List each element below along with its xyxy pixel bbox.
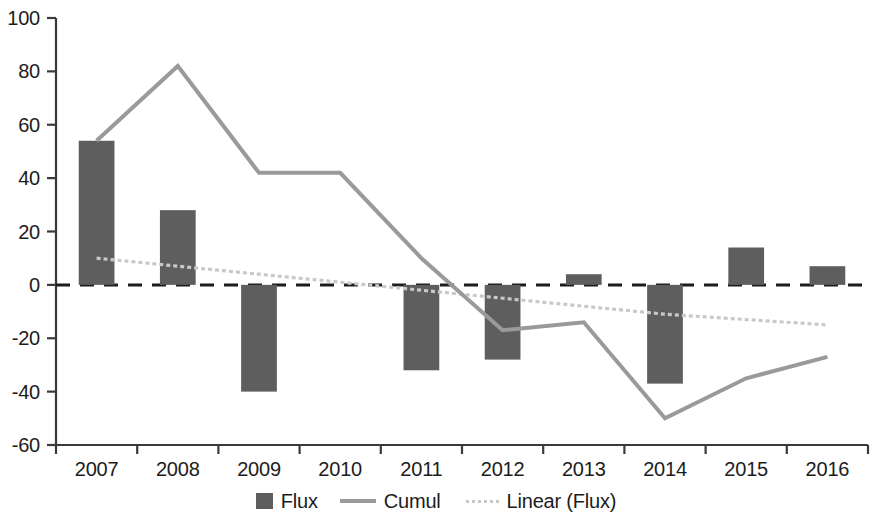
- dotted-line-swatch-icon: [463, 500, 499, 503]
- legend-entry-linear-flux: Linear (Flux): [463, 490, 617, 512]
- x-axis-tick-label: 2014: [624, 459, 705, 479]
- x-axis-tick-label: 2015: [706, 459, 787, 479]
- y-axis-tick-label: 0: [0, 275, 40, 295]
- y-axis-tick-label: 60: [0, 115, 40, 135]
- y-axis-tick-label: -60: [0, 435, 40, 455]
- chart-legend: Flux Cumul Linear (Flux): [0, 487, 872, 515]
- x-axis-ticks: [56, 445, 868, 454]
- flux-bars: [79, 141, 846, 392]
- legend-label-flux: Flux: [281, 490, 318, 512]
- x-axis-tick-label: 2013: [543, 459, 624, 479]
- legend-label-linear-flux: Linear (Flux): [507, 490, 617, 512]
- legend-label-cumul: Cumul: [384, 490, 441, 512]
- legend-entry-cumul: Cumul: [340, 490, 441, 512]
- y-axis-tick-label: -40: [0, 382, 40, 402]
- y-axis-tick-label: 40: [0, 168, 40, 188]
- y-axis-tick-label: -20: [0, 328, 40, 348]
- x-axis-tick-label: 2008: [137, 459, 218, 479]
- x-axis-tick-label: 2011: [381, 459, 462, 479]
- x-axis-tick-label: 2010: [300, 459, 381, 479]
- y-axis-tick-label: 20: [0, 222, 40, 242]
- chart-plot-area: [0, 0, 872, 518]
- cumul-line: [97, 66, 828, 418]
- x-axis-tick-label: 2009: [218, 459, 299, 479]
- y-axis-tick-label: 100: [0, 8, 40, 28]
- solid-line-swatch-icon: [340, 499, 376, 503]
- flux-cumul-chart: 100806040200-20-40-60 200720082009201020…: [0, 0, 872, 518]
- x-axis-tick-label: 2007: [56, 459, 137, 479]
- y-axis-ticks: [47, 18, 56, 445]
- bar-swatch-icon: [256, 493, 273, 509]
- legend-entry-flux: Flux: [256, 490, 318, 512]
- y-axis-tick-label: 80: [0, 61, 40, 81]
- x-axis-tick-label: 2016: [787, 459, 868, 479]
- x-axis-tick-label: 2012: [462, 459, 543, 479]
